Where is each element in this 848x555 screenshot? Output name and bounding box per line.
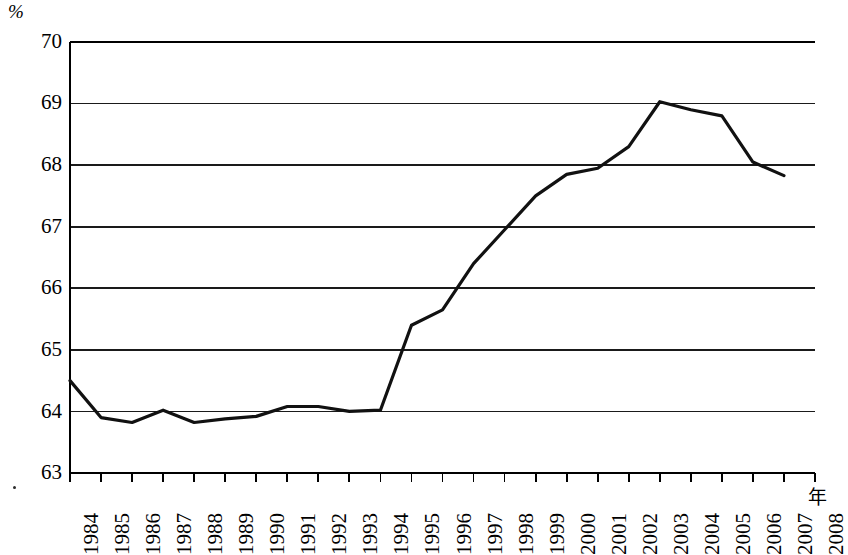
x-tick-label: 1997 xyxy=(484,485,506,555)
x-tick-label: 1989 xyxy=(235,485,257,555)
x-tick-label: 2006 xyxy=(763,485,785,555)
x-tick-label: 2008 xyxy=(825,485,847,555)
x-tick-label: 2004 xyxy=(701,485,723,555)
x-tick-label: 1985 xyxy=(111,485,133,555)
x-tick-label: 2005 xyxy=(732,485,754,555)
x-tick-label: 2001 xyxy=(608,485,630,555)
x-tick-label: 2003 xyxy=(670,485,692,555)
x-tick-label: 1998 xyxy=(515,485,537,555)
x-tick-label: 2002 xyxy=(639,485,661,555)
x-tick-label: 1984 xyxy=(80,485,102,555)
x-tick-label: 1994 xyxy=(390,485,412,555)
x-tick-label: 1996 xyxy=(453,485,475,555)
x-tick-label: 1992 xyxy=(328,485,350,555)
x-tick-label: 2000 xyxy=(577,485,599,555)
x-tick-label: 1993 xyxy=(359,485,381,555)
x-tick-label: 1988 xyxy=(204,485,226,555)
x-tick-label: 1999 xyxy=(546,485,568,555)
x-tick-label: 1995 xyxy=(421,485,443,555)
x-tick-label: 1987 xyxy=(173,485,195,555)
x-axis-unit-label: 年 xyxy=(808,488,827,507)
x-tick-label: 1990 xyxy=(266,485,288,555)
stray-dot xyxy=(13,486,16,489)
x-tick-label: 1991 xyxy=(297,485,319,555)
x-tick-label: 1986 xyxy=(142,485,164,555)
